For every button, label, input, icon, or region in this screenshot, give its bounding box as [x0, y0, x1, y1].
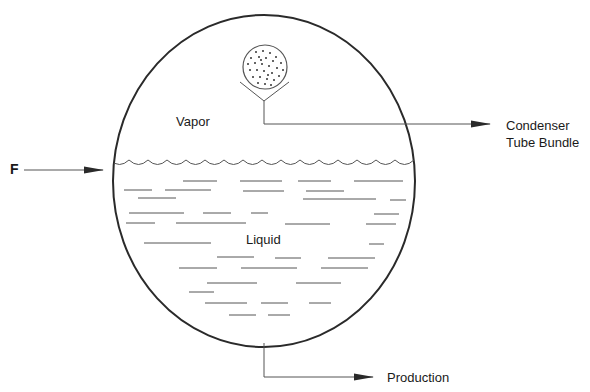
condenser-tube-bundle: [240, 45, 289, 101]
liquid-label: Liquid: [246, 232, 281, 247]
liquid-surface: [110, 160, 433, 165]
vapor-label: Vapor: [176, 114, 210, 129]
diagram-canvas: [0, 0, 590, 392]
feed-label: F: [10, 162, 19, 177]
condenser-label-line2: Tube Bundle: [506, 135, 579, 150]
production-label: Production: [387, 370, 449, 385]
condenser-label-line1: Condenser: [506, 118, 570, 133]
condenser-outlet-arrow: [264, 101, 490, 124]
liquid-hatching: [124, 181, 406, 315]
production-outlet-arrow: [264, 343, 373, 377]
